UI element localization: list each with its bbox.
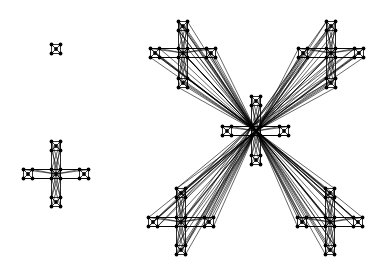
hub-edge — [188, 22, 257, 132]
graph-node — [259, 125, 263, 129]
graph-node — [205, 56, 209, 60]
hub-edge — [205, 127, 252, 218]
graph-node — [184, 244, 188, 248]
graph-node — [287, 134, 291, 138]
hub-edge — [160, 58, 252, 127]
graph-node — [254, 158, 258, 162]
hub-edge — [177, 131, 257, 246]
graph-node — [324, 196, 328, 200]
graph-node — [356, 220, 360, 224]
graph-node — [50, 140, 54, 144]
graph-node — [151, 220, 155, 224]
graph-node — [179, 248, 183, 252]
graph-node — [259, 154, 263, 158]
graph-node — [59, 205, 63, 209]
graph-node — [254, 99, 258, 103]
graph-node — [296, 216, 300, 220]
graph-node — [209, 51, 213, 55]
graph-node — [158, 56, 162, 60]
graph-node — [334, 29, 338, 33]
graph-node — [59, 168, 63, 172]
graph-node — [184, 196, 188, 200]
graph-node — [54, 172, 58, 176]
graph-node — [333, 196, 337, 200]
hub-edge — [186, 127, 252, 227]
graph-node — [179, 220, 183, 224]
graph-node — [203, 225, 207, 229]
graph-node — [158, 47, 162, 51]
graph-node — [184, 253, 188, 257]
graph-node — [329, 51, 333, 55]
graph-node — [225, 129, 229, 133]
graph-node — [147, 216, 151, 220]
graph-node — [333, 244, 337, 248]
graph-node — [297, 47, 301, 51]
graph-node — [352, 216, 356, 220]
graph-node — [78, 177, 82, 181]
graph-node — [181, 51, 185, 55]
graph-node — [328, 191, 332, 195]
graph-node — [54, 200, 58, 204]
graph-node — [357, 51, 361, 55]
hub-edge — [207, 49, 252, 127]
graph-node — [214, 47, 218, 51]
hub-edge — [252, 79, 336, 127]
graph-node — [177, 29, 181, 33]
graph-node — [334, 20, 338, 24]
graph-node — [181, 81, 185, 85]
hub-edge — [214, 131, 257, 227]
graph-node — [175, 196, 179, 200]
graph-node — [50, 52, 54, 56]
hub-edge — [177, 131, 257, 255]
graph-node — [353, 56, 357, 60]
hub-edge — [205, 127, 252, 227]
graph-node — [259, 134, 263, 138]
graph-node — [324, 253, 328, 257]
graph-node — [50, 149, 54, 153]
graph-node — [296, 225, 300, 229]
graph-node — [153, 51, 157, 55]
graph-node — [186, 86, 190, 90]
graph-node — [278, 134, 282, 138]
hub-edge — [256, 22, 336, 132]
hub-edge — [252, 127, 307, 227]
graph-node — [333, 225, 337, 229]
graph-node — [259, 104, 263, 108]
hub-edge — [252, 127, 354, 227]
graph-node — [59, 52, 63, 56]
graph-node — [333, 216, 337, 220]
graph-node — [329, 24, 333, 28]
graph-node — [186, 20, 190, 24]
graph-node — [361, 216, 365, 220]
hub-edge — [252, 58, 355, 127]
graph-node — [250, 134, 254, 138]
graph-node — [352, 225, 356, 229]
graph-node — [362, 56, 366, 60]
graph-node — [328, 248, 332, 252]
graph-node — [250, 163, 254, 167]
graph-node — [186, 47, 190, 51]
graph-node — [207, 220, 211, 224]
graph-node — [325, 56, 329, 60]
graph-node — [325, 47, 329, 51]
graph-node — [325, 29, 329, 33]
graph-node — [177, 56, 181, 60]
graph-node — [306, 47, 310, 51]
graph-node — [22, 168, 26, 172]
graph-node — [31, 177, 35, 181]
graph-node — [325, 20, 329, 24]
graph-node — [149, 47, 153, 51]
graph-node — [156, 216, 160, 220]
graph-node — [50, 177, 54, 181]
graph-node — [181, 24, 185, 28]
graph-node — [186, 77, 190, 81]
graph-node — [334, 77, 338, 81]
graph-node — [221, 125, 225, 129]
graph-node — [78, 168, 82, 172]
graph-node — [334, 56, 338, 60]
graph-node — [87, 168, 91, 172]
graph-node — [203, 216, 207, 220]
hub-edge — [252, 127, 335, 227]
graph-node — [250, 104, 254, 108]
graph-node — [259, 95, 263, 99]
